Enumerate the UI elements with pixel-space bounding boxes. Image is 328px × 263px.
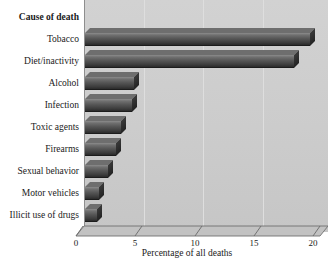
bar-front-face: [85, 99, 132, 112]
bar-alcohol: [85, 72, 140, 91]
bar-toxic-agents: [85, 116, 127, 135]
xtick-label-0: 0: [64, 238, 88, 248]
bar-motor-vehicles: [85, 182, 105, 201]
bar-tobacco: [85, 28, 316, 47]
bar-front-face: [85, 209, 97, 222]
bar-front-face: [85, 33, 310, 46]
category-label-firearms: Firearms: [0, 144, 79, 155]
xtick-label-20: 20: [301, 238, 325, 248]
category-label-tobacco: Tobacco: [0, 34, 79, 45]
bar-front-face: [85, 77, 134, 90]
xtick-label-5: 5: [123, 238, 147, 248]
bar-chart: Cause of death Tobacco Diet/inactivity A…: [0, 0, 328, 263]
category-label-alcohol: Alcohol: [0, 78, 79, 89]
bar-front-face: [85, 121, 121, 134]
bar-front-face: [85, 165, 108, 178]
bar-sexual-behavior: [85, 160, 114, 179]
bar-end-cap: [99, 182, 104, 200]
xtick-label-10: 10: [183, 238, 207, 248]
xtick-label-15: 15: [242, 238, 266, 248]
bar-infection: [85, 94, 138, 113]
bar-end-cap: [310, 28, 315, 46]
value-axis-title: Percentage of all deaths: [0, 248, 328, 258]
bar-front-face: [85, 187, 99, 200]
category-label-motor-vehicles: Motor vehicles: [0, 188, 79, 199]
bar-firearms: [85, 138, 122, 157]
value-axis: [62, 224, 328, 238]
value-axis-title-text: Percentage of all deaths: [142, 248, 232, 258]
bar-diet-inactivity: [85, 50, 300, 69]
category-label-infection: Infection: [0, 100, 79, 111]
category-label-diet-inactivity: Diet/inactivity: [0, 56, 79, 67]
category-label-toxic-agents: Toxic agents: [0, 122, 79, 133]
bar-end-cap: [97, 204, 102, 222]
bar-illicit-use-of-drugs: [85, 204, 103, 223]
bar-end-cap: [132, 94, 137, 112]
category-axis-header: Cause of death: [0, 12, 79, 23]
bar-end-cap: [134, 72, 139, 90]
bar-front-face: [85, 55, 294, 68]
bar-end-cap: [116, 138, 121, 156]
bar-front-face: [85, 143, 116, 156]
category-label-sexual-behavior: Sexual behavior: [0, 166, 79, 177]
category-label-illicit-use-of-drugs: Illicit use of drugs: [0, 210, 79, 221]
